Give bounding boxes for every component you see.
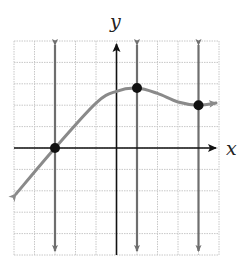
marked-points xyxy=(50,83,204,153)
marked-point xyxy=(194,100,204,110)
marked-point xyxy=(132,83,142,93)
function-graph: y x xyxy=(0,0,246,269)
x-axis-label: x xyxy=(226,137,237,159)
axes xyxy=(14,44,216,255)
marked-point xyxy=(50,143,60,153)
y-axis-label: y xyxy=(109,10,121,32)
